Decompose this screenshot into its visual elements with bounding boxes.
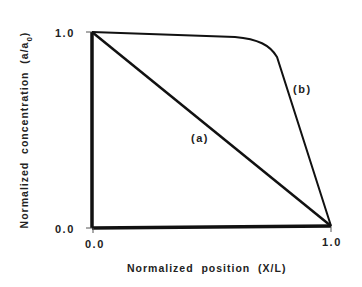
svg-text:Normalized concentration (a/: Normalized concentration (a/a0) xyxy=(18,32,34,229)
y-axis-title: Normalized concentration (a/a0) xyxy=(18,32,34,229)
y-axis-title-close: ) xyxy=(18,32,30,37)
chart: 1.0 0.0 0.0 1.0 (a) (b) Normalized posit… xyxy=(0,0,362,287)
y-axis-title-main: Normalized concentration (a/a xyxy=(18,42,30,229)
y-tick-label-1: 1.0 xyxy=(55,27,75,39)
x-axis xyxy=(92,226,331,228)
x-tick-label-0: 0.0 xyxy=(85,238,105,250)
y-tick-label-0: 0.0 xyxy=(55,223,75,235)
x-axis-title: Normalized position (X/L) xyxy=(127,262,286,274)
series-b-label: (b) xyxy=(293,83,312,95)
x-tick-label-1: 1.0 xyxy=(322,236,342,248)
series-a-line xyxy=(92,32,331,226)
series-a-label: (a) xyxy=(191,132,209,144)
